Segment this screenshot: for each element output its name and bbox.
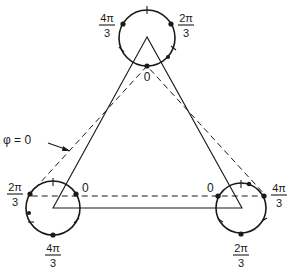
dot-0	[215, 193, 220, 198]
dot-0	[73, 191, 78, 196]
dot-4pi3	[50, 232, 55, 237]
label-top-4pi3: 4π 3	[99, 12, 115, 39]
svg-text:4π: 4π	[100, 12, 114, 24]
label-right-0: 0	[207, 181, 214, 195]
dot-small	[166, 55, 170, 59]
svg-text:3: 3	[183, 27, 189, 39]
dashed-triangle	[28, 66, 266, 196]
dot-small	[27, 211, 31, 215]
svg-text:3: 3	[276, 197, 282, 209]
label-left-4pi3: 4π 3	[45, 242, 61, 269]
dot-small	[247, 182, 251, 186]
label-top-2pi3: 2π 3	[178, 12, 194, 39]
label-left-0: 0	[82, 181, 89, 195]
svg-text:3: 3	[12, 196, 18, 208]
svg-text:4π: 4π	[272, 182, 286, 194]
svg-text:2π: 2π	[8, 181, 22, 193]
phi-zero-label: φ = 0	[3, 133, 31, 147]
svg-text:2π: 2π	[179, 12, 193, 24]
dot-4pi3	[261, 193, 266, 198]
svg-text:4π: 4π	[46, 242, 60, 254]
dot-2pi3	[168, 21, 173, 26]
label-top-0: 0	[144, 70, 151, 84]
svg-text:3: 3	[238, 257, 244, 269]
svg-text:3: 3	[104, 27, 110, 39]
svg-text:3: 3	[50, 257, 56, 269]
dot-0	[144, 63, 149, 68]
label-left-2pi3: 2π 3	[7, 181, 23, 208]
dot-4pi3	[120, 21, 125, 26]
dot-2pi3	[27, 191, 32, 196]
phase-diagram: φ = 0 4π 3 2π 3 0 2π 3 0 4π 3 0 4π 3 2π …	[0, 0, 294, 274]
label-right-4pi3: 4π 3	[271, 182, 287, 209]
dot-2pi3	[238, 231, 243, 236]
label-right-2pi3: 2π 3	[233, 242, 249, 269]
arrow-head-icon	[62, 146, 70, 151]
svg-text:2π: 2π	[234, 242, 248, 254]
